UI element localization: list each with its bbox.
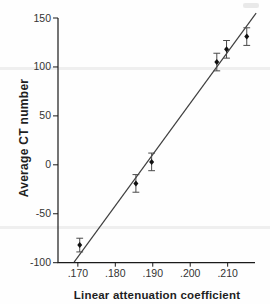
y-axis-title: Average CT number xyxy=(17,63,31,213)
x-tick-label: .170 xyxy=(68,267,89,279)
y-tick-label: 0 xyxy=(45,158,51,170)
x-tick-label: .180 xyxy=(105,267,126,279)
y-tick-label: 100 xyxy=(33,60,51,72)
fit-line xyxy=(74,13,256,262)
x-tick-label: .210 xyxy=(217,267,238,279)
ct-number-vs-attenuation-figure: 150100500-50-100.170.180.190.200.210 Ave… xyxy=(0,0,270,304)
y-tick-label: -100 xyxy=(30,256,51,268)
data-point-marker xyxy=(149,159,154,165)
scatter-plot-canvas: 150100500-50-100.170.180.190.200.210 xyxy=(0,0,270,304)
data-point-marker xyxy=(77,242,82,248)
x-tick-label: .200 xyxy=(180,267,201,279)
data-point-marker xyxy=(133,180,138,186)
data-point-marker xyxy=(244,34,249,40)
x-axis-title: Linear attenuation coefficient xyxy=(44,289,270,301)
y-tick-label: 50 xyxy=(39,109,51,121)
x-tick-label: .190 xyxy=(143,267,164,279)
y-tick-label: -50 xyxy=(36,207,51,219)
y-tick-label: 150 xyxy=(33,12,51,24)
